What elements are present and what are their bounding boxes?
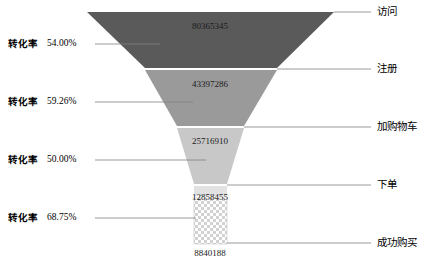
conversion-rate-labels: 转化率 54.00% 转化率 59.26% 转化率 50.00% 转化率 68.… bbox=[8, 38, 76, 223]
conversion-rate-3-prefix: 转化率 bbox=[8, 154, 38, 165]
stage-value-register: 43397286 bbox=[192, 79, 229, 89]
funnel-chart: 80365345 43397286 25716910 12858455 8840… bbox=[0, 0, 430, 265]
conversion-rate-2[interactable]: 转化率 59.26% bbox=[8, 96, 76, 107]
stage-label-visit[interactable]: 访问 bbox=[377, 5, 397, 17]
conversion-rate-4-prefix: 转化率 bbox=[8, 212, 38, 223]
funnel-segment-purchase-success[interactable] bbox=[194, 198, 227, 244]
stage-value-place-order: 12858455 bbox=[192, 192, 229, 202]
stage-value-purchase-success: 8840188 bbox=[194, 248, 226, 258]
conversion-rate-1[interactable]: 转化率 54.00% bbox=[8, 38, 76, 49]
stage-label-register[interactable]: 注册 bbox=[377, 62, 398, 74]
conversion-rate-2-value: 59.26% bbox=[47, 96, 76, 106]
funnel-chart-canvas: 80365345 43397286 25716910 12858455 8840… bbox=[0, 0, 430, 265]
stage-value-add-to-cart: 25716910 bbox=[192, 136, 229, 146]
conversion-rate-3[interactable]: 转化率 50.00% bbox=[8, 154, 76, 165]
conversion-rate-2-prefix: 转化率 bbox=[8, 96, 38, 107]
funnel-stage-labels: 访问 注册 加购物车 下单 成功购买 bbox=[377, 5, 417, 248]
stage-label-purchase-success[interactable]: 成功购买 bbox=[377, 236, 417, 248]
conversion-rate-4-value: 68.75% bbox=[47, 212, 76, 222]
conversion-rate-1-value: 54.00% bbox=[47, 38, 76, 48]
stage-label-add-to-cart[interactable]: 加购物车 bbox=[377, 120, 417, 132]
conversion-rate-1-prefix: 转化率 bbox=[8, 38, 38, 49]
stage-label-place-order[interactable]: 下单 bbox=[377, 178, 397, 190]
conversion-rate-4[interactable]: 转化率 68.75% bbox=[8, 212, 76, 223]
stage-value-visit: 80365345 bbox=[192, 21, 229, 31]
conversion-rate-3-value: 50.00% bbox=[47, 154, 76, 164]
funnel-segments bbox=[87, 12, 334, 244]
